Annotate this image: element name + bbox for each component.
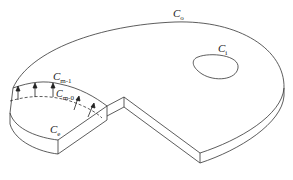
label-ci: Ci bbox=[218, 43, 227, 57]
label-ce: Ce bbox=[50, 124, 60, 138]
label-co: Co bbox=[173, 8, 184, 22]
label-cm1: Cm-1 bbox=[53, 71, 72, 85]
label-cm0: Cm-0 bbox=[56, 89, 74, 102]
inner-hole bbox=[193, 55, 238, 79]
notch-top bbox=[107, 97, 200, 153]
outer-bottom-right bbox=[200, 88, 284, 153]
cut-surface bbox=[58, 106, 107, 154]
slab-diagram bbox=[0, 0, 293, 180]
